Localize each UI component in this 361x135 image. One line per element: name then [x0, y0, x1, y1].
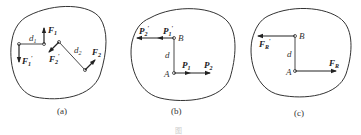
panel-a: F1 F1′ d1 F2′ d2 F2 (a): [11, 6, 106, 116]
force-arrow-F2-prime: [49, 42, 59, 52]
label-F1-prime: F1′: [21, 55, 33, 67]
force-arrow-F2: [85, 60, 95, 70]
caption-b: (b): [171, 106, 182, 116]
label-F2-prime: F2′: [48, 53, 60, 65]
panel-b: P2′ P1′ B d A P1 P2 (b): [131, 9, 235, 116]
label-P2: P2: [204, 60, 213, 71]
label-F1: F1: [47, 25, 57, 36]
label-d2: d2: [74, 45, 82, 56]
figure-caption: 图: [175, 127, 182, 135]
force-couple-diagram: F1 F1′ d1 F2′ d2 F2 (a) P2′ P1′ B d A P1…: [0, 0, 361, 135]
rigid-body-outline: [251, 8, 351, 96]
label-P2-prime: P2′: [139, 25, 150, 37]
force-arrow-P1: [185, 71, 191, 75]
label-FR-prime: FR′: [258, 38, 271, 50]
label-d: d: [165, 50, 170, 60]
rigid-body-outline: [131, 9, 235, 101]
panel-c: FR′ B d A FR (c): [251, 8, 351, 118]
label-B: B: [178, 33, 184, 43]
force-arrow-P1-prime: [157, 36, 163, 40]
label-d1: d1: [29, 33, 37, 44]
label-P1-prime: P1′: [163, 25, 174, 37]
caption-c: (c): [294, 108, 304, 118]
label-F2: F2: [91, 47, 101, 58]
label-d: d: [287, 49, 292, 59]
label-A: A: [163, 69, 170, 79]
label-P1: P1: [182, 60, 191, 71]
label-A: A: [285, 67, 292, 77]
caption-a: (a): [57, 106, 67, 116]
label-FR: FR: [328, 58, 339, 69]
label-B: B: [299, 31, 305, 41]
